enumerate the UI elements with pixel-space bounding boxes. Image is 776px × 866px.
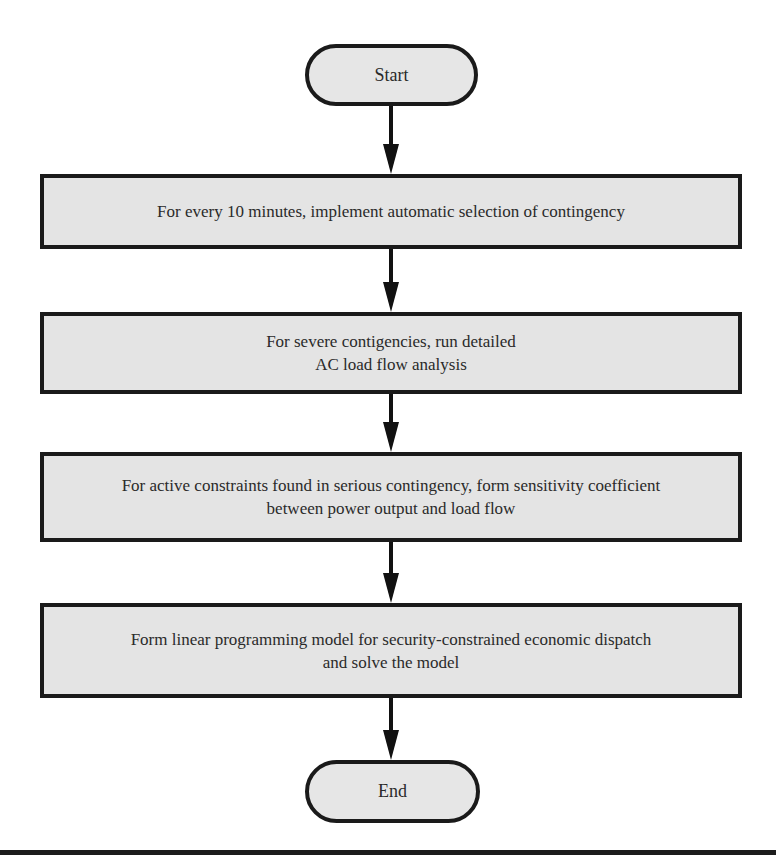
step-1-line-1: For every 10 minutes, implement automati… [157,200,625,223]
end-label: End [378,781,407,802]
process-step-4: Form linear programming model for securi… [40,603,742,698]
start-terminator: Start [305,44,478,106]
step-3-line-2: between power output and load flow [267,497,516,520]
step-3-line-1: For active constraints found in serious … [122,474,661,497]
bottom-divider [0,850,776,855]
arrow-step3-to-step4 [383,542,399,603]
step-2-line-1: For severe contigencies, run detailed [266,330,516,353]
start-label: Start [375,65,409,86]
arrow-step4-to-end [383,698,399,760]
arrow-start-to-step1 [383,106,399,174]
step-4-line-2: and solve the model [323,651,459,674]
process-step-3: For active constraints found in serious … [40,452,742,542]
end-terminator: End [305,760,480,823]
process-step-1: For every 10 minutes, implement automati… [40,174,742,249]
step-4-line-1: Form linear programming model for securi… [131,628,652,651]
arrow-step1-to-step2 [383,249,399,312]
step-2-line-2: AC load flow analysis [315,353,467,376]
arrow-step2-to-step3 [383,394,399,452]
process-step-2: For severe contigencies, run detailed AC… [40,312,742,394]
